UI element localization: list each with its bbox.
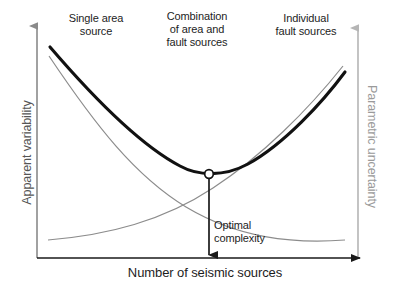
- total-variability-curve: [50, 47, 345, 174]
- seismic-source-tradeoff-figure: Single area source Combination of area a…: [0, 0, 393, 290]
- x-axis-label: Number of seismic sources: [60, 265, 350, 281]
- annotation-optimal-complexity: Optimal complexity: [214, 219, 288, 245]
- optimal-complexity-marker: [205, 170, 214, 179]
- y-axis-right-label: Parametric uncertainty: [365, 62, 378, 232]
- y-axis-left-label: Apparent variability: [21, 73, 34, 233]
- annotation-single-area-source: Single area source: [48, 12, 144, 38]
- annotation-individual-fault-sources: Individual fault sources: [256, 12, 356, 38]
- annotation-combination-area-fault: Combination of area and fault sources: [139, 10, 255, 49]
- apparent-variability-curve: [49, 56, 345, 241]
